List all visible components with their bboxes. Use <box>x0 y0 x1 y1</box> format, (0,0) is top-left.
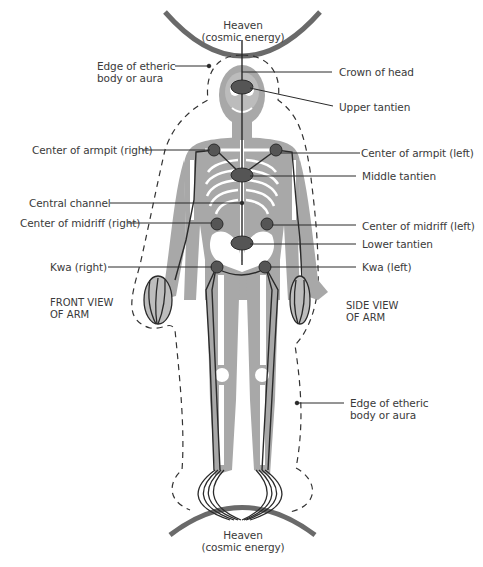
crown-of-head-label: Crown of head <box>339 66 414 78</box>
top-heaven-line1: Heaven <box>198 19 288 31</box>
armpit-left-point <box>270 144 282 156</box>
aura-top-line2: body or aura <box>97 72 175 84</box>
upper-tantien <box>231 80 253 94</box>
side-view-arm-label: SIDE VIEW OF ARM <box>346 300 399 324</box>
front-view-line2: OF ARM <box>50 309 113 321</box>
aura-top-line1: Edge of etheric <box>97 60 175 72</box>
armpit-right-label: Center of armpit (right) <box>32 144 152 156</box>
lower-tantien <box>231 236 253 250</box>
armpit-left-label: Center of armpit (left) <box>361 147 474 159</box>
side-view-arm-hand <box>290 276 310 324</box>
midriff-right-point <box>211 218 223 230</box>
kwa-right-point <box>211 261 223 273</box>
midriff-left-label: Center of midriff (left) <box>362 220 475 232</box>
middle-tantien-label: Middle tantien <box>362 170 436 182</box>
front-view-arm-hand <box>144 276 172 324</box>
kwa-left-point <box>259 261 271 273</box>
top-heaven-line2: (cosmic energy) <box>198 31 288 43</box>
aura-bottom-line1: Edge of etheric <box>350 397 428 409</box>
kwa-left-label: Kwa (left) <box>362 261 411 273</box>
front-view-line1: FRONT VIEW <box>50 297 113 309</box>
front-view-arm-label: FRONT VIEW OF ARM <box>50 297 113 321</box>
midriff-left-point <box>261 218 273 230</box>
top-heaven-label: Heaven (cosmic energy) <box>198 19 288 43</box>
central-channel-label: Central channel <box>29 197 111 209</box>
side-view-line2: OF ARM <box>346 312 399 324</box>
aura-top-label: Edge of etheric body or aura <box>97 60 175 84</box>
bottom-heaven-line1: Heaven <box>198 529 288 541</box>
midriff-right-label: Center of midriff (right) <box>20 217 140 229</box>
kwa-right-label: Kwa (right) <box>50 261 107 273</box>
aura-bottom-label: Edge of etheric body or aura <box>350 397 428 421</box>
side-view-line1: SIDE VIEW <box>346 300 399 312</box>
body-diagram <box>0 0 483 567</box>
upper-tantien-label: Upper tantien <box>339 101 410 113</box>
bottom-heaven-label: Heaven (cosmic energy) <box>198 529 288 553</box>
aura-bottom-line2: body or aura <box>350 409 428 421</box>
middle-tantien <box>231 168 253 182</box>
lower-tantien-label: Lower tantien <box>362 238 433 250</box>
bottom-heaven-line2: (cosmic energy) <box>198 541 288 553</box>
